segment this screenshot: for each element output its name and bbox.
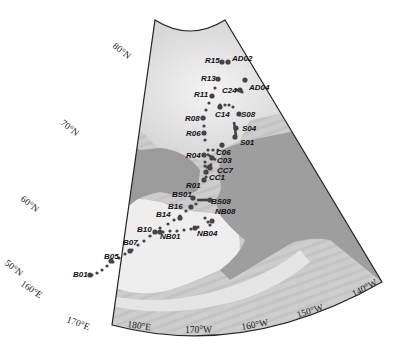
station-marker-icon	[237, 87, 242, 92]
station-label: B14	[156, 210, 171, 219]
track-point	[204, 108, 207, 111]
station-marker-icon	[188, 204, 193, 209]
station-marker-icon	[87, 272, 92, 277]
track-point	[223, 103, 226, 106]
track-point	[203, 138, 206, 141]
track-point	[172, 218, 175, 221]
station-label: R13	[201, 74, 216, 83]
grid-label-lat-80: 80°N	[111, 41, 133, 61]
station-marker-icon	[203, 169, 208, 174]
station-marker-icon	[219, 142, 224, 147]
track-point	[142, 239, 145, 242]
station-label: C14	[215, 110, 230, 119]
station-label: AD02	[231, 54, 253, 63]
track-point	[206, 220, 209, 223]
station-label: B01	[73, 270, 88, 279]
track-point	[203, 160, 206, 163]
station-marker-icon	[242, 77, 247, 82]
track-point	[100, 268, 103, 271]
station-b01: B01	[73, 270, 93, 279]
station-label: R06	[186, 129, 201, 138]
station-marker-icon	[127, 248, 132, 253]
grid-label-lon-160e: 160°E	[19, 278, 44, 300]
station-label: B07	[123, 238, 138, 247]
grid-label-lon-170e: 170°E	[65, 314, 91, 332]
track-point	[211, 148, 214, 151]
station-label: NB01	[160, 232, 181, 241]
arctic-station-map: AD02R15R13AD04C24R11C14S08R08S04R06S01C0…	[0, 0, 396, 346]
station-label: NB04	[197, 229, 218, 238]
station-label: R11	[194, 90, 209, 99]
station-label: S04	[242, 124, 257, 133]
station-label: R04	[186, 151, 201, 160]
track-point	[206, 148, 209, 151]
grid-label-lat-60: 60°N	[19, 194, 41, 214]
station-label: B10	[137, 225, 152, 234]
station-marker-icon	[209, 93, 214, 98]
track-point	[208, 223, 211, 226]
station-label: B05	[104, 252, 119, 261]
station-marker-icon	[215, 76, 220, 81]
track-point	[202, 124, 205, 127]
track-point	[158, 226, 161, 229]
station-label: S01	[240, 138, 255, 147]
track-point	[207, 101, 210, 104]
track-point	[189, 227, 192, 230]
station-marker-icon	[152, 229, 157, 234]
station-label: C03	[217, 156, 232, 165]
grid-label-lat-50: 50°N	[3, 258, 25, 278]
track-point	[148, 234, 151, 237]
station-marker-icon	[177, 215, 182, 220]
station-nb01: NB01	[157, 229, 181, 241]
station-bs08: BS08	[207, 197, 231, 206]
station-label: BS01	[172, 190, 193, 199]
station-label: R01	[186, 181, 201, 190]
station-label: AD04	[248, 83, 270, 92]
station-label: C24	[222, 86, 237, 95]
track-point	[227, 103, 230, 106]
track-point	[182, 228, 185, 231]
station-label: CC1	[209, 173, 226, 182]
station-label: S08	[241, 110, 256, 119]
grid-label-lat-70: 70°N	[59, 118, 81, 138]
track-point	[123, 252, 126, 255]
grid-label-lon-180e: 180°E	[127, 319, 152, 332]
station-label: NB08	[215, 207, 236, 216]
track-point	[213, 86, 216, 89]
map-sector	[0, 0, 396, 346]
station-marker-icon	[225, 59, 230, 64]
station-marker-icon	[201, 177, 206, 182]
station-b05: B05	[104, 252, 119, 264]
track-point	[184, 209, 187, 212]
station-marker-icon	[201, 152, 206, 157]
track-point	[203, 216, 206, 219]
track-point	[95, 271, 98, 274]
station-label: R08	[185, 114, 200, 123]
station-label: R15	[205, 56, 220, 65]
station-marker-icon	[200, 115, 205, 120]
station-label: BS08	[211, 197, 232, 206]
station-marker-icon	[217, 104, 222, 109]
grid-label-lon-170w: 170°W	[185, 325, 212, 335]
station-marker-icon	[219, 59, 224, 64]
station-marker-icon	[201, 130, 206, 135]
track-point	[105, 264, 108, 267]
station-marker-icon	[209, 218, 214, 223]
track-point	[194, 202, 197, 205]
track-point	[166, 222, 169, 225]
track-point	[231, 105, 234, 108]
